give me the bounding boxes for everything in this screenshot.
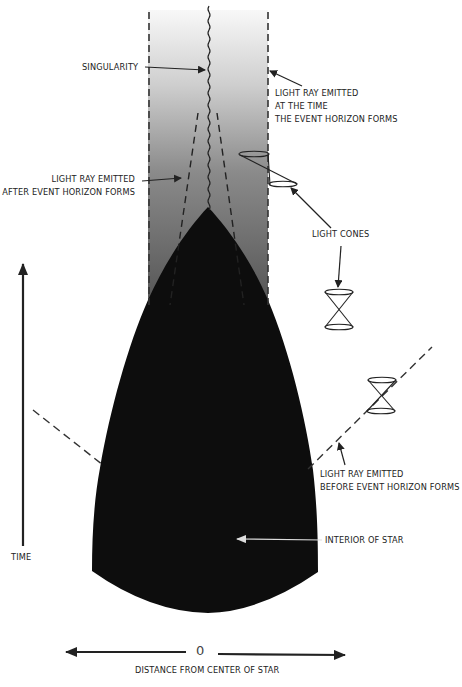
distance-axis-right-arrow bbox=[218, 654, 345, 655]
time-axis-label: TIME bbox=[11, 551, 31, 564]
ray-after-label: LIGHT RAY EMITTED AFTER EVENT HORIZON FO… bbox=[2, 173, 135, 199]
light-cone-upright-1 bbox=[325, 289, 353, 330]
interior-label: INTERIOR OF STAR bbox=[325, 534, 404, 547]
light-ray-before-left bbox=[33, 410, 103, 465]
singularity-label: SINGULARITY bbox=[82, 61, 138, 74]
ray-at-time-pointer bbox=[270, 71, 302, 86]
ray-before-pointer bbox=[339, 443, 345, 465]
light-cone-upright-2 bbox=[367, 377, 396, 414]
light-cones-pointer-lower bbox=[338, 246, 341, 287]
light-cones-label: LIGHT CONES bbox=[312, 228, 369, 241]
light-cones-pointer-upper bbox=[291, 188, 331, 228]
collapsing-star-region bbox=[92, 207, 318, 613]
ray-at-time-label: LIGHT RAY EMITTED AT THE TIME THE EVENT … bbox=[275, 87, 398, 126]
distance-axis-label: DISTANCE FROM CENTER OF STAR bbox=[135, 664, 279, 677]
origin-label: 0 bbox=[196, 643, 204, 658]
ray-before-label: LIGHT RAY EMITTED BEFORE EVENT HORIZON F… bbox=[320, 468, 460, 494]
